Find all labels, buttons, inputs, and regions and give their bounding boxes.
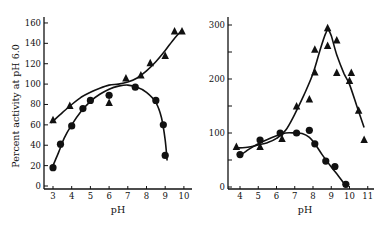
left-y-tick-label: 80: [30, 99, 41, 109]
right-y-tick-label: 200: [209, 74, 225, 84]
right-y-tick-label: 100: [209, 128, 225, 138]
right-triangle-point: [360, 135, 368, 143]
left-x-tick-label: 7: [125, 191, 130, 201]
right-triangle-point: [233, 143, 241, 151]
left-triangle-point: [137, 71, 145, 79]
left-circle-point: [87, 97, 94, 104]
left-triangle-point: [66, 101, 74, 109]
right-circle-point: [306, 127, 313, 134]
right-circle-point: [277, 129, 284, 136]
right-x-tick-label: 11: [362, 191, 373, 201]
left-x-tick-label: 9: [162, 191, 167, 201]
right-circle-point: [293, 129, 300, 136]
right-circles-fit-curve: [240, 133, 346, 186]
right-x-tick-label: 7: [292, 191, 297, 201]
left-x-tick-label: 5: [88, 191, 93, 201]
right-circle-point: [311, 140, 318, 147]
left-x-tick-label: 6: [106, 191, 111, 201]
right-triangle-point: [355, 106, 363, 114]
right-circle-point: [342, 181, 349, 188]
left-y-tick-label: 140: [25, 38, 41, 48]
left-circle-point: [57, 141, 64, 148]
right-circle-point: [256, 136, 263, 143]
left-y-axis-label: Percent activity at pH 6.0: [10, 44, 21, 167]
right-y-tick-label: 300: [209, 20, 225, 30]
right-x-tick-label: 5: [256, 191, 261, 201]
right-triangle-point: [333, 69, 341, 77]
right-triangle-point: [324, 24, 332, 32]
left-circle-point: [152, 97, 159, 104]
right-circle-point: [236, 151, 243, 158]
right-x-axis-label: pH: [298, 204, 312, 215]
right-triangle-point: [348, 69, 356, 77]
left-circle-point: [160, 121, 167, 128]
right-triangle-point: [324, 42, 332, 50]
left-triangle-point: [146, 59, 154, 66]
left-x-tick-label: 4: [69, 191, 74, 201]
left-triangle-point: [178, 27, 186, 35]
right-x-tick-label: 4: [237, 191, 242, 201]
left-chart-panel: Percent activity at pH 6.0 pH 3456789100…: [10, 17, 192, 215]
left-circle-point: [132, 84, 139, 91]
left-y-tick-label: 20: [30, 161, 41, 171]
left-y-tick-label: 160: [25, 18, 41, 28]
right-x-tick-label: 9: [329, 191, 334, 201]
right-triangle-point: [333, 36, 341, 44]
right-x-tick-label: 10: [344, 191, 355, 201]
left-x-axis-label: pH: [111, 204, 125, 215]
left-circle-point: [106, 92, 113, 99]
left-x-tick-label: 10: [178, 191, 189, 201]
left-triangle-point: [171, 27, 179, 35]
left-y-tick-label: 40: [30, 140, 41, 150]
left-triangle-point: [122, 74, 129, 82]
left-triangle-point: [105, 98, 113, 106]
left-circle-point: [68, 122, 75, 129]
left-circle-point: [49, 164, 56, 171]
right-x-tick-label: 8: [310, 191, 315, 201]
left-circle-point: [79, 105, 86, 112]
figure: Percent activity at pH 6.0 pH 3456789100…: [0, 0, 390, 226]
right-triangle-point: [311, 45, 319, 53]
right-circle-point: [331, 163, 338, 170]
left-y-tick-label: 0: [36, 181, 41, 191]
right-y-tick-label: 0: [220, 182, 225, 192]
right-chart-panel: pH 45678910110100200300: [209, 17, 374, 215]
left-x-tick-label: 3: [50, 191, 55, 201]
right-triangles-fit-curve: [236, 30, 364, 148]
right-circle-point: [322, 157, 329, 164]
right-triangle-point: [311, 68, 319, 76]
left-y-tick-label: 120: [25, 59, 41, 69]
left-y-tick-label: 60: [30, 120, 41, 130]
right-triangle-point: [306, 95, 314, 103]
left-circle-point: [162, 152, 169, 159]
left-x-tick-label: 8: [144, 191, 149, 201]
right-x-tick-label: 6: [274, 191, 279, 201]
left-y-tick-label: 100: [25, 79, 41, 89]
